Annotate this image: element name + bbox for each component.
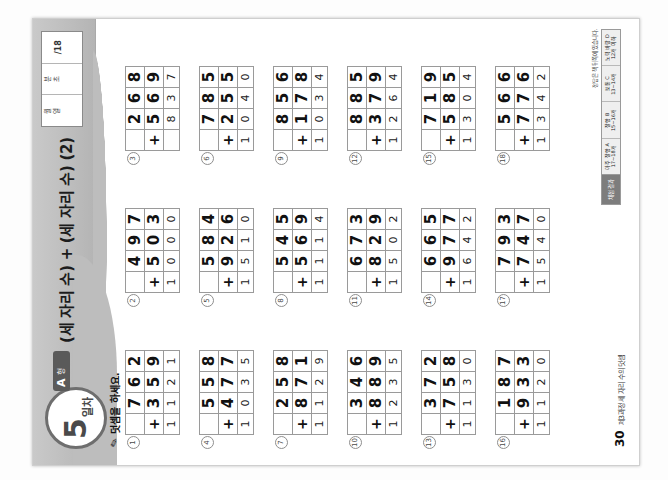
answer-digit-4[interactable]: 5 xyxy=(238,351,254,372)
addend1-digit-3: 5 xyxy=(348,67,367,88)
answer-digit-2[interactable]: 0 xyxy=(164,251,180,272)
answer-digit-3[interactable]: 0 xyxy=(460,88,476,109)
answer-digit-3[interactable]: 3 xyxy=(460,372,476,393)
answer-digit-1[interactable]: 1 xyxy=(534,414,550,435)
answer-row[interactable]: 1342 xyxy=(534,67,550,151)
answer-digit-1[interactable]: 1 xyxy=(312,130,328,151)
answer-digit-4[interactable]: 4 xyxy=(460,67,476,88)
answer-digit-4[interactable]: 5 xyxy=(386,351,402,372)
answer-digit-3[interactable]: 2 xyxy=(312,372,328,393)
answer-row[interactable]: 837 xyxy=(164,67,180,151)
answer-digit-1[interactable]: 1 xyxy=(460,272,476,293)
answer-digit-1[interactable] xyxy=(164,130,180,151)
answer-row[interactable]: 1035 xyxy=(238,351,254,435)
answer-digit-2[interactable]: 0 xyxy=(312,109,328,130)
answer-digit-3[interactable]: 2 xyxy=(534,372,550,393)
answer-row[interactable]: 1264 xyxy=(386,67,402,151)
answer-row[interactable]: 1121 xyxy=(164,351,180,435)
plus-operator-icon: + xyxy=(219,130,238,151)
answer-digit-2[interactable]: 5 xyxy=(386,251,402,272)
answer-digit-4[interactable]: 0 xyxy=(460,351,476,372)
answer-row[interactable]: 1130 xyxy=(460,351,476,435)
answer-digit-1[interactable]: 1 xyxy=(238,414,254,435)
answer-row[interactable]: 1114 xyxy=(312,209,328,293)
answer-digit-4[interactable]: 0 xyxy=(534,351,550,372)
answer-digit-4[interactable]: 2 xyxy=(460,209,476,230)
answer-digit-2[interactable]: 6 xyxy=(460,251,476,272)
stamp-cell-date[interactable]: 월 일 xyxy=(42,94,82,126)
answer-digit-2[interactable]: 1 xyxy=(460,393,476,414)
answer-digit-1[interactable]: 1 xyxy=(386,272,402,293)
answer-row[interactable]: 1120 xyxy=(534,351,550,435)
stamp-cell-score[interactable]: /18 xyxy=(42,32,82,63)
answer-digit-3[interactable]: 0 xyxy=(386,230,402,251)
answer-digit-3[interactable]: 3 xyxy=(386,372,402,393)
blank-cell xyxy=(422,130,441,151)
answer-digit-3[interactable]: 4 xyxy=(534,230,550,251)
answer-digit-2[interactable]: 5 xyxy=(238,251,254,272)
answer-digit-2[interactable]: 0 xyxy=(238,109,254,130)
answer-digit-3[interactable]: 3 xyxy=(238,372,254,393)
answer-digit-4[interactable]: 9 xyxy=(312,351,328,372)
answer-digit-1[interactable]: 1 xyxy=(386,414,402,435)
answer-digit-2[interactable]: 2 xyxy=(386,109,402,130)
answer-digit-4[interactable]: 2 xyxy=(534,67,550,88)
answer-digit-3[interactable]: 1 xyxy=(312,230,328,251)
answer-row[interactable]: 1235 xyxy=(386,351,402,435)
answer-digit-3[interactable]: 0 xyxy=(164,230,180,251)
answer-digit-2[interactable]: 1 xyxy=(312,393,328,414)
answer-digit-4[interactable]: 1 xyxy=(164,351,180,372)
answer-digit-4[interactable]: 4 xyxy=(386,67,402,88)
answer-digit-2[interactable]: 3 xyxy=(460,109,476,130)
addend2-digit-2: 7 xyxy=(293,88,312,109)
answer-digit-1[interactable]: 1 xyxy=(386,130,402,151)
answer-row[interactable]: 1510 xyxy=(238,209,254,293)
answer-digit-1[interactable]: 1 xyxy=(312,414,328,435)
answer-digit-2[interactable]: 1 xyxy=(312,251,328,272)
answer-digit-3[interactable]: 3 xyxy=(164,88,180,109)
answer-digit-2[interactable]: 1 xyxy=(534,393,550,414)
answer-row[interactable]: 1040 xyxy=(238,67,254,151)
answer-digit-1[interactable]: 1 xyxy=(238,272,254,293)
answer-digit-3[interactable]: 4 xyxy=(460,230,476,251)
answer-digit-4[interactable]: 7 xyxy=(164,67,180,88)
answer-digit-4[interactable]: 4 xyxy=(312,209,328,230)
answer-digit-4[interactable]: 2 xyxy=(386,209,402,230)
answer-digit-1[interactable]: 1 xyxy=(312,272,328,293)
answer-digit-1[interactable]: 1 xyxy=(460,130,476,151)
answer-digit-2[interactable]: 8 xyxy=(164,109,180,130)
answer-row[interactable]: 1304 xyxy=(460,67,476,151)
answer-digit-2[interactable]: 1 xyxy=(164,393,180,414)
addend1-digit-3: 2 xyxy=(126,351,145,372)
answer-digit-3[interactable]: 6 xyxy=(386,88,402,109)
answer-digit-4[interactable]: 0 xyxy=(238,209,254,230)
answer-digit-4[interactable]: 0 xyxy=(238,67,254,88)
answer-digit-1[interactable]: 1 xyxy=(238,130,254,151)
answer-digit-3[interactable]: 4 xyxy=(534,88,550,109)
answer-digit-1[interactable]: 1 xyxy=(164,272,180,293)
answer-digit-1[interactable]: 1 xyxy=(164,414,180,435)
answer-digit-1[interactable]: 1 xyxy=(534,130,550,151)
answer-row[interactable]: 1129 xyxy=(312,351,328,435)
answer-digit-4[interactable]: 0 xyxy=(164,209,180,230)
answer-digit-3[interactable]: 1 xyxy=(238,230,254,251)
answer-row[interactable]: 1034 xyxy=(312,67,328,151)
answer-digit-1[interactable]: 1 xyxy=(534,272,550,293)
problem-10: 10346+8891235 xyxy=(347,315,421,449)
stamp-cell-time[interactable]: 분 초 xyxy=(42,63,82,95)
answer-row[interactable]: 1540 xyxy=(534,209,550,293)
answer-row[interactable]: 1642 xyxy=(460,209,476,293)
answer-digit-2[interactable]: 0 xyxy=(238,393,254,414)
answer-digit-3[interactable]: 2 xyxy=(164,372,180,393)
answer-digit-3[interactable]: 3 xyxy=(312,88,328,109)
answer-digit-4[interactable]: 0 xyxy=(534,209,550,230)
answer-digit-3[interactable]: 4 xyxy=(238,88,254,109)
answer-digit-1[interactable]: 1 xyxy=(460,414,476,435)
addend1-digit-3: 6 xyxy=(274,67,293,88)
answer-digit-4[interactable]: 4 xyxy=(312,67,328,88)
answer-digit-2[interactable]: 2 xyxy=(386,393,402,414)
answer-digit-2[interactable]: 3 xyxy=(534,109,550,130)
answer-row[interactable]: 1502 xyxy=(386,209,402,293)
answer-row[interactable]: 1000 xyxy=(164,209,180,293)
answer-digit-2[interactable]: 5 xyxy=(534,251,550,272)
